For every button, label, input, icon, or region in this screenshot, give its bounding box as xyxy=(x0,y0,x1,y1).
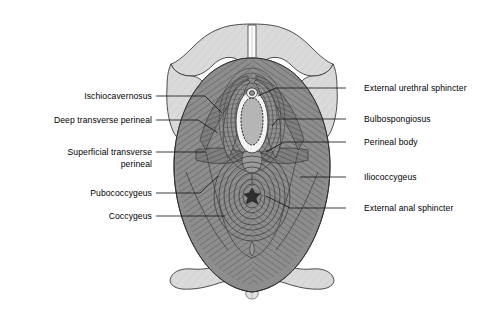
label-iliococcygeus: Iliococcygeus xyxy=(364,172,417,184)
label-ischiocavernosus: Ischiocavernosus xyxy=(52,91,152,103)
label-superficial-transverse-perineal: Superficial transverse perineal xyxy=(24,147,152,170)
label-external-anal-sphincter: External anal sphincter xyxy=(364,203,453,215)
label-external-urethral-sphincter: External urethral sphincter xyxy=(364,83,467,95)
vaginal-opening xyxy=(236,91,268,153)
label-bulbospongiosus: Bulbospongiosus xyxy=(364,114,431,126)
label-deep-transverse-perineal: Deep transverse perineal xyxy=(14,115,152,127)
urethral-opening xyxy=(247,88,258,98)
label-coccygeus: Coccygeus xyxy=(80,211,152,223)
label-pubococcygeus: Pubococcygeus xyxy=(62,188,152,200)
label-perineal-body: Perineal body xyxy=(364,137,418,149)
